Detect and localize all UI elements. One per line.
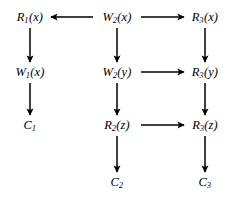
node-subscript: 1 [32, 123, 36, 133]
node-subscript: 2 [112, 123, 116, 133]
node-subscript: 2 [113, 15, 117, 25]
graph-node: R1(x) [16, 11, 44, 24]
node-subscript: 3 [207, 180, 211, 190]
node-subscript: 1 [26, 70, 30, 80]
graph-node: C3 [198, 176, 213, 189]
graph-node: C2 [110, 176, 125, 189]
node-subscript: 3 [199, 70, 203, 80]
node-argument: (z) [116, 118, 130, 132]
node-argument: (x) [30, 65, 44, 79]
graph-node: R2(z) [103, 119, 131, 132]
node-argument: (y) [204, 65, 218, 79]
node-subscript: 2 [113, 70, 117, 80]
node-subscript: 2 [119, 180, 123, 190]
graph-node: W2(x) [101, 11, 132, 24]
node-argument: (z) [204, 118, 218, 132]
node-argument: (x) [117, 10, 131, 24]
node-argument: (y) [117, 65, 131, 79]
node-subscript: 3 [200, 123, 204, 133]
graph-node: R3(y) [191, 66, 219, 79]
graph-node: W1(x) [14, 66, 45, 79]
graph-node: R3(z) [191, 119, 219, 132]
node-subscript: 1 [24, 15, 28, 25]
node-argument: (x) [204, 10, 218, 24]
dependency-graph-diagram: R1(x)W2(x)R3(x)W1(x)W2(y)R3(y)C1R2(z)R3(… [0, 0, 231, 199]
node-base-letter: W [102, 65, 113, 79]
arrow-layer [0, 0, 231, 199]
graph-node: W2(y) [101, 66, 132, 79]
node-argument: (x) [29, 10, 43, 24]
graph-node: C1 [23, 119, 38, 132]
node-subscript: 3 [199, 15, 203, 25]
graph-node: R3(x) [191, 11, 219, 24]
node-base-letter: W [15, 65, 26, 79]
node-base-letter: W [102, 10, 113, 24]
